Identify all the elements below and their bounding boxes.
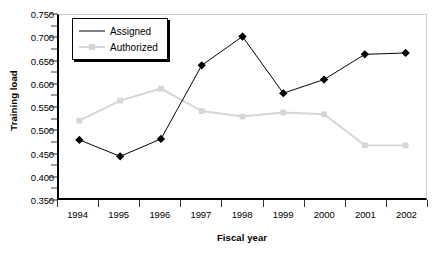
x-axis-tick: [304, 200, 305, 207]
x-axis-tick-label: 2002: [396, 209, 417, 220]
legend-label-assigned: Assigned: [110, 26, 151, 37]
data-point-authorized-2001: [362, 143, 368, 149]
data-point-assigned-1997: [198, 61, 206, 69]
data-point-assigned-1996: [157, 135, 165, 143]
x-axis-tick: [345, 200, 346, 207]
x-axis-tick-label: 1996: [149, 209, 170, 220]
data-point-assigned-1998: [238, 32, 246, 40]
data-point-assigned-1995: [116, 152, 124, 160]
legend: Assigned Authorized: [72, 18, 168, 60]
x-axis-tick: [57, 200, 58, 207]
x-axis-tick-label: 1998: [232, 209, 253, 220]
x-axis-tick: [427, 200, 428, 207]
data-point-assigned-2002: [401, 49, 409, 57]
x-axis-tick: [386, 200, 387, 207]
data-point-authorized-1998: [240, 114, 246, 120]
x-axis-tick-label: 1999: [273, 209, 294, 220]
legend-item-authorized: Authorized: [79, 39, 158, 55]
x-axis-tick-label: 2000: [314, 209, 335, 220]
x-axis-tick: [263, 200, 264, 207]
legend-item-assigned: Assigned: [79, 23, 158, 39]
data-point-assigned-2000: [320, 75, 328, 83]
x-axis-title: Fiscal year: [57, 232, 427, 243]
y-axis-tick-labels: 0.7500.7000.6500.6000.5500.5000.4500.400…: [18, 10, 54, 200]
data-point-assigned-2001: [361, 50, 369, 58]
legend-label-authorized: Authorized: [110, 42, 158, 53]
data-point-authorized-1995: [117, 98, 123, 104]
x-axis-tick-label: 1995: [108, 209, 129, 220]
data-point-authorized-1994: [77, 118, 83, 124]
data-point-authorized-1997: [199, 108, 205, 114]
y-axis-title-text: Training load: [8, 70, 19, 130]
legend-line-assigned: [79, 31, 105, 32]
x-axis-tick-label: 1994: [67, 209, 88, 220]
data-point-authorized-1999: [280, 110, 286, 116]
data-point-assigned-1994: [75, 136, 83, 144]
line-chart: Training load 0.7500.7000.6500.6000.5500…: [0, 0, 441, 259]
x-axis-tick-label: 2001: [355, 209, 376, 220]
x-axis-tick: [180, 200, 181, 207]
x-axis-tick: [221, 200, 222, 207]
x-axis-tick: [139, 200, 140, 207]
legend-swatch-authorized: [79, 41, 105, 53]
legend-swatch-assigned: [79, 25, 105, 37]
data-point-assigned-1999: [279, 89, 287, 97]
data-point-authorized-2002: [403, 143, 409, 149]
x-axis-tick: [98, 200, 99, 207]
x-axis-tick-label: 1997: [191, 209, 212, 220]
data-point-authorized-1996: [158, 86, 164, 92]
data-point-authorized-2000: [321, 111, 327, 117]
